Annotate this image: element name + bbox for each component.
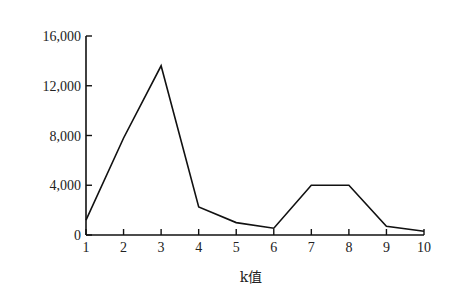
x-tick-label: 5 — [233, 240, 240, 255]
x-tick-label: 1 — [83, 240, 90, 255]
x-tick-label: 7 — [308, 240, 315, 255]
x-tick-label: 10 — [417, 240, 431, 255]
x-tick-label: 6 — [270, 240, 277, 255]
y-tick-label: 0 — [74, 228, 81, 243]
y-tick-label: 16,000 — [43, 29, 82, 44]
x-tick-label: 4 — [195, 240, 202, 255]
y-axis: 04,0008,00012,00016,000 — [43, 29, 93, 243]
x-tick-label: 9 — [383, 240, 390, 255]
x-tick-label: 2 — [120, 240, 127, 255]
x-tick-label: 3 — [158, 240, 165, 255]
series-line — [86, 66, 424, 232]
y-tick-label: 12,000 — [43, 79, 82, 94]
y-tick-label: 4,000 — [50, 178, 82, 193]
line-chart: 04,0008,00012,00016,000 12345678910 k值 — [0, 0, 460, 300]
y-tick-label: 8,000 — [50, 129, 82, 144]
x-axis: 12345678910 — [83, 229, 432, 255]
x-tick-label: 8 — [345, 240, 352, 255]
x-axis-title: k值 — [240, 269, 262, 285]
